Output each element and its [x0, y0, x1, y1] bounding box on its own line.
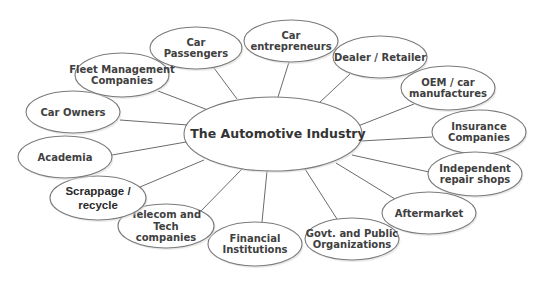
edge-fleet-management-companies	[158, 91, 208, 110]
node-label-line: Scrappage /	[65, 185, 131, 197]
node-financial-institutions: FinancialInstitutions	[208, 222, 304, 268]
node-label-line: Passengers	[164, 48, 228, 59]
edge-scrappage-recycle	[140, 160, 204, 187]
node-label-line: Institutions	[222, 244, 287, 255]
node-label: Govt. and PublicOrganizations	[306, 228, 399, 251]
node-scrappage-recycle: Scrappage /recycle	[50, 176, 148, 222]
node-independent-repair-shops: Independentrepair shops	[428, 152, 524, 198]
edge-car-owners	[120, 120, 188, 125]
node-label-line: Dealer / Retailer	[334, 52, 426, 63]
node-academia: Academia	[18, 136, 114, 180]
node-label: Car Owners	[40, 107, 105, 118]
node-label-line: Organizations	[313, 239, 392, 250]
node-car-entrepreneurs: Carentrepreneurs	[244, 20, 340, 64]
edge-car-entrepreneurs	[278, 62, 289, 97]
node-label: InsuranceCompanies	[448, 121, 510, 144]
node-insurance-companies: InsuranceCompanies	[432, 110, 528, 156]
node-label-line: companies	[136, 232, 196, 243]
node-label-line: Car	[281, 30, 300, 41]
node-label-line: Financial	[230, 233, 281, 244]
edge-car-passengers	[214, 68, 237, 99]
node-label-line: manufactures	[409, 88, 487, 99]
node-oem-car-manufactures: OEM / carmanufactures	[401, 66, 497, 112]
node-label-line: Car	[186, 37, 205, 48]
node-label-line: recycle	[78, 199, 118, 211]
node-label-line: repair shops	[440, 174, 511, 185]
node-label-line: OEM / car	[421, 77, 475, 88]
automotive-industry-diagram: CarPassengersCarentrepreneursDealer / Re…	[0, 0, 549, 281]
node-label: Dealer / Retailer	[334, 52, 426, 63]
node-label-line: Tech	[153, 221, 178, 232]
node-label-line: Aftermarket	[395, 208, 464, 219]
center-label: The Automotive Industry	[190, 126, 365, 141]
node-label-line: Academia	[38, 152, 93, 163]
node-label: Aftermarket	[395, 208, 464, 219]
edge-dealer-retailer	[319, 74, 350, 103]
node-label-line: Companies	[91, 75, 153, 86]
edge-govt-public-organizations	[305, 169, 337, 219]
node-label-line: Car Owners	[40, 107, 105, 118]
node-label: Independentrepair shops	[439, 163, 511, 186]
node-label: Academia	[38, 152, 93, 163]
node-label: FinancialInstitutions	[222, 233, 287, 256]
node-govt-public-organizations: Govt. and PublicOrganizations	[305, 218, 401, 262]
edge-telecom-tech-companies	[200, 168, 243, 212]
edge-insurance-companies	[361, 137, 432, 141]
node-label-line: Govt. and Public	[306, 228, 399, 239]
node-label-line: entrepreneurs	[250, 41, 331, 52]
center-node: The Automotive Industry	[184, 97, 366, 173]
node-label-line: Insurance	[451, 121, 507, 132]
node-label-line: Fleet Management	[69, 64, 175, 75]
node-label-line: Companies	[448, 132, 510, 143]
edge-oem-car-manufactures	[358, 104, 414, 126]
edge-financial-institutions	[262, 171, 267, 222]
edge-aftermarket	[336, 163, 395, 199]
node-label-line: Independent	[439, 163, 511, 174]
edge-academia	[112, 142, 186, 155]
edge-independent-repair-shops	[352, 155, 429, 172]
